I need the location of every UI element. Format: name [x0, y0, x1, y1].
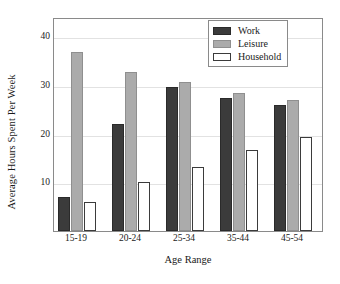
x-axis-tick-labels: 15-1920-2425-3435-4445-54 — [53, 234, 323, 250]
x-axis-title: Age Range — [53, 254, 323, 265]
legend-item: Household — [213, 50, 281, 63]
bar — [112, 124, 124, 231]
y-axis-tick-label: 10 — [41, 179, 51, 189]
legend-item: Work — [213, 24, 281, 37]
x-axis-tick-label: 45-54 — [281, 234, 303, 244]
legend-swatch-icon — [213, 53, 231, 61]
y-axis-tick-labels: 10203040 — [30, 18, 50, 232]
bar — [287, 100, 299, 231]
y-axis-title: Average Hours Spent Per Week — [0, 0, 22, 284]
bar — [71, 52, 83, 231]
bar-chart: Average Hours Spent Per Week 10203040 15… — [0, 0, 340, 284]
bar — [166, 87, 178, 231]
bar — [233, 93, 245, 231]
bar — [300, 137, 312, 231]
bar — [125, 72, 137, 231]
bar-group — [112, 19, 150, 231]
bar — [192, 167, 204, 231]
x-axis-tick-label: 20-24 — [119, 234, 141, 244]
y-axis-tick-label: 30 — [41, 81, 51, 91]
legend-item-label: Work — [238, 26, 260, 36]
bar-group — [166, 19, 204, 231]
bar — [138, 182, 150, 231]
bar — [246, 150, 258, 231]
bar — [220, 98, 232, 231]
x-axis-tick-label: 35-44 — [227, 234, 249, 244]
legend-item-label: Leisure — [238, 39, 268, 49]
y-axis-tick-label: 20 — [41, 130, 51, 140]
legend-swatch-icon — [213, 40, 231, 48]
legend-swatch-icon — [213, 27, 231, 35]
bar — [179, 82, 191, 231]
bar — [84, 202, 96, 231]
legend-item: Leisure — [213, 37, 281, 50]
bar-group — [58, 19, 96, 231]
y-axis-tick-label: 40 — [41, 33, 51, 43]
x-axis-tick-label: 15-19 — [65, 234, 87, 244]
x-axis-tick-label: 25-34 — [173, 234, 195, 244]
legend-item-label: Household — [238, 52, 281, 62]
bar — [274, 105, 286, 231]
chart-legend: WorkLeisureHousehold — [208, 20, 288, 67]
bar — [58, 197, 70, 231]
